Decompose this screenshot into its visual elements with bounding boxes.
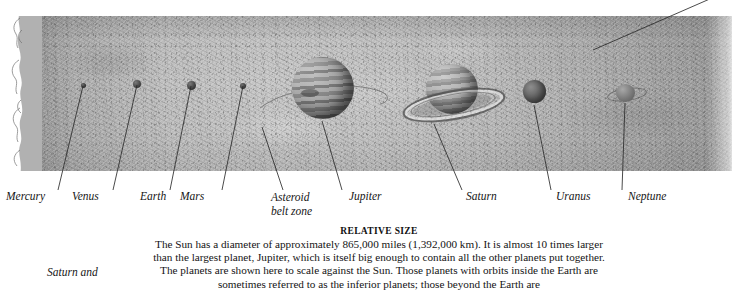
label-venus: Venus	[72, 190, 99, 203]
planet-mercury	[81, 83, 86, 88]
planet-jupiter	[292, 57, 354, 119]
label-saturn-text: Saturn	[466, 190, 497, 202]
label-neptune: Neptune	[628, 190, 666, 203]
label-earth: Earth	[140, 190, 166, 203]
planet-saturn	[400, 50, 504, 136]
sun-torn-left-edge	[10, 16, 42, 171]
label-jupiter-text: Jupiter	[349, 190, 382, 202]
label-neptune-text: Neptune	[628, 190, 666, 202]
label-saturn: Saturn	[466, 190, 497, 203]
label-mars: Mars	[180, 190, 204, 203]
label-mercury-text: Mercury	[6, 190, 45, 202]
side-note-saturn-and: Saturn and	[47, 266, 98, 278]
label-uranus: Uranus	[556, 190, 591, 203]
label-earth-text: Earth	[140, 190, 166, 202]
planet-venus	[133, 80, 141, 88]
caption-block: RELATIVE SIZE The Sun has a diameter of …	[148, 226, 610, 291]
sun-band-right-fade	[707, 16, 732, 171]
caption-body: The Sun has a diameter of approximately …	[148, 238, 610, 291]
label-venus-text: Venus	[72, 190, 99, 202]
label-jupiter: Jupiter	[349, 190, 382, 203]
label-mercury: Mercury	[6, 190, 45, 203]
caption-title: RELATIVE SIZE	[148, 226, 610, 236]
label-mars-text: Mars	[180, 190, 204, 202]
label-asteroid-belt-zone: Asteroid belt zone	[271, 190, 312, 218]
label-uranus-text: Uranus	[556, 190, 591, 202]
label-asteroid-line2: belt zone	[271, 204, 312, 218]
planet-uranus	[523, 80, 546, 103]
label-asteroid-line1: Asteroid	[271, 190, 312, 204]
neptune-disc	[616, 84, 635, 102]
planet-mars	[240, 83, 246, 89]
planet-earth	[187, 81, 196, 90]
planet-neptune	[607, 80, 645, 106]
